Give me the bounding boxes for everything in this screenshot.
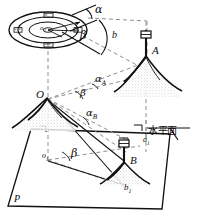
label-o2-sub: 2	[44, 28, 46, 33]
label-beta: β	[80, 30, 86, 41]
mountain-peak-a	[110, 54, 184, 100]
label-o1-sub: 1	[46, 156, 49, 162]
label-alpha-b-base: α	[86, 107, 93, 118]
dial-tick-90: 90	[75, 28, 79, 31]
label-alpha-a-sub: A	[102, 79, 107, 87]
label-b1-sub: 1	[129, 188, 132, 194]
survey-angle-diagram: α β b A O αA β′ αB 水平面 a1 o1 β B b1 P o2…	[0, 0, 198, 221]
diagram-canvas	[0, 0, 198, 221]
dial-tick-270: 270	[15, 28, 21, 31]
label-alpha-a-base: α	[95, 73, 102, 84]
label-b: b	[112, 30, 117, 40]
label-point-b: B	[130, 155, 137, 166]
label-point-o: O	[36, 89, 44, 100]
label-horizontal-plane: 水平面	[148, 126, 177, 136]
label-o2: o2	[40, 25, 46, 34]
label-beta-prime: β′	[80, 88, 88, 98]
survey-target-b	[119, 140, 129, 164]
label-point-a: A	[152, 45, 159, 56]
label-alpha-b: αB	[86, 108, 97, 120]
label-plane-p: P	[14, 194, 20, 204]
mountain-peak-o	[10, 95, 80, 135]
label-b1: b1	[124, 183, 131, 195]
label-o1: o1	[42, 152, 49, 162]
dial-tick-0: 0	[45, 14, 47, 17]
label-beta-plane: β	[71, 148, 77, 159]
label-a1-sub: 1	[147, 140, 150, 146]
label-alpha-a: αA	[95, 74, 106, 86]
dial-tick-180: 180	[45, 43, 51, 46]
label-alpha-b-sub: B	[93, 113, 98, 121]
label-alpha: α	[95, 4, 102, 15]
survey-target-a	[141, 30, 151, 58]
label-a1: a1	[143, 136, 150, 146]
